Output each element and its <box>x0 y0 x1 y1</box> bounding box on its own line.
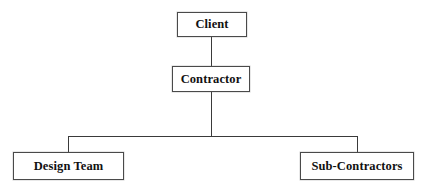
node-design-team-label: Design Team <box>34 159 104 172</box>
connector-horizontal-bus <box>68 136 358 137</box>
connector-bus-to-design-team <box>68 136 69 152</box>
node-client-label: Client <box>195 18 228 31</box>
org-chart: Client Contractor Design Team Sub-Contra… <box>0 0 425 188</box>
node-contractor-label: Contractor <box>181 72 242 85</box>
connector-bus-to-sub-contractors <box>357 136 358 152</box>
node-contractor[interactable]: Contractor <box>172 66 250 92</box>
connector-contractor-to-bus <box>211 92 212 137</box>
node-sub-contractors[interactable]: Sub-Contractors <box>300 152 414 180</box>
node-sub-contractors-label: Sub-Contractors <box>311 159 402 172</box>
node-client[interactable]: Client <box>177 12 247 37</box>
connector-client-to-contractor <box>211 37 212 66</box>
node-design-team[interactable]: Design Team <box>13 152 124 180</box>
